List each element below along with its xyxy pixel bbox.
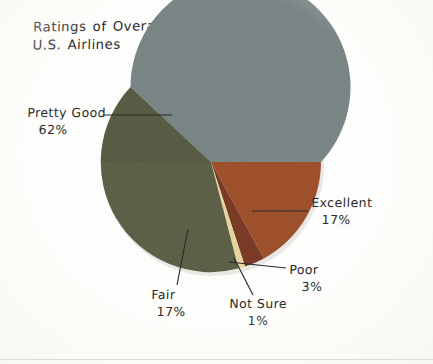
callout-fair-label: Fair — [151, 287, 176, 302]
callout-poor-label: Poor — [289, 262, 319, 277]
pie-svg — [0, 0, 433, 364]
callout-poor: Poor 3% — [288, 262, 323, 295]
pie-chart-page: Ratings of Overall Quality of Service by… — [0, 0, 433, 364]
callout-pretty-good-value: 62% — [38, 122, 105, 139]
callout-pretty-good: Pretty Good 62% — [26, 105, 106, 138]
callout-fair-value: 17% — [156, 304, 186, 321]
callout-fair: Fair 17% — [150, 287, 186, 320]
callout-excellent: Excellent 17% — [310, 195, 372, 228]
callout-not-sure-label: Not Sure — [229, 296, 287, 311]
callout-excellent-value: 17% — [321, 212, 372, 229]
callout-excellent-label: Excellent — [311, 195, 373, 210]
callout-not-sure: Not Sure 1% — [228, 296, 287, 329]
callout-poor-value: 3% — [301, 279, 322, 296]
pie-chart-graphic — [0, 0, 433, 364]
scan-edge-line — [0, 359, 433, 360]
callout-pretty-good-label: Pretty Good — [27, 105, 106, 120]
callout-not-sure-value: 1% — [247, 313, 286, 330]
